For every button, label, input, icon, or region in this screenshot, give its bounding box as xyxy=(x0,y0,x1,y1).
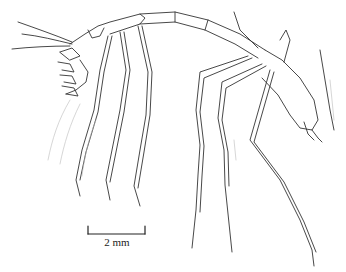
head xyxy=(58,14,145,96)
body-trunk xyxy=(140,12,265,58)
legs xyxy=(76,26,316,266)
faint-setae xyxy=(48,80,334,176)
antennae xyxy=(12,22,72,49)
abdomen xyxy=(234,12,334,142)
scale-bar-label: 2 mm xyxy=(96,236,138,248)
specimen-illustration xyxy=(0,0,346,272)
scale-bar xyxy=(88,226,145,234)
